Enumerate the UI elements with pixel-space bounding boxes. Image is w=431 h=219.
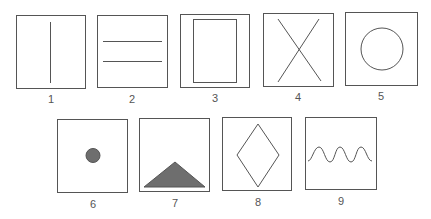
panel-1 bbox=[17, 16, 86, 89]
sine-wave-shape bbox=[308, 147, 372, 162]
panel-6 bbox=[58, 120, 128, 193]
diamond-shape bbox=[237, 124, 279, 187]
panel-label-4: 4 bbox=[288, 91, 308, 103]
panel-label-8: 8 bbox=[248, 196, 268, 208]
filled-triangle-shape bbox=[144, 162, 205, 187]
panel-3-frame bbox=[181, 15, 250, 88]
panel-5 bbox=[346, 13, 418, 86]
panel-2-frame bbox=[98, 16, 168, 88]
panel-9 bbox=[306, 118, 377, 190]
filled-dot-shape bbox=[86, 149, 100, 163]
panel-8 bbox=[223, 118, 292, 191]
panel-4 bbox=[264, 14, 334, 87]
figure-panels bbox=[0, 0, 431, 219]
panel-label-9: 9 bbox=[331, 195, 351, 207]
panel-label-7: 7 bbox=[165, 197, 185, 209]
panel-label-3: 3 bbox=[205, 92, 225, 104]
panel-label-1: 1 bbox=[41, 93, 61, 105]
circle-shape bbox=[361, 28, 403, 70]
panel-label-6: 6 bbox=[83, 198, 103, 210]
panel-3 bbox=[181, 15, 250, 88]
inner-rectangle-shape bbox=[194, 20, 237, 83]
panel-label-2: 2 bbox=[122, 93, 142, 105]
panel-8-frame bbox=[223, 118, 292, 191]
panel-2 bbox=[98, 16, 168, 88]
panel-5-frame bbox=[346, 13, 418, 86]
panel-7 bbox=[140, 119, 210, 192]
panel-label-5: 5 bbox=[371, 90, 391, 102]
